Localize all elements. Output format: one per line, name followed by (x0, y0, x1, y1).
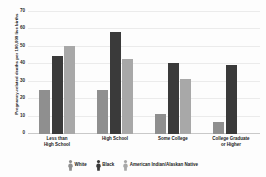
y-tick-label-10: 10 (20, 113, 25, 118)
bar-black-2[interactable] (168, 63, 179, 134)
x-axis-label-3: College Graduate or Higher (202, 136, 260, 154)
legend-item-1[interactable]: Black (96, 160, 115, 171)
y-axis-title: Pregnancy-related deaths per 100,000 liv… (15, 3, 19, 125)
person-icon (96, 160, 101, 171)
legend-label: American Indian/Alaskan Native (130, 163, 198, 168)
y-tick-label-30: 30 (20, 78, 25, 83)
bar-group (86, 12, 144, 134)
legend-item-0[interactable]: White (68, 160, 87, 171)
person-icon (68, 160, 73, 171)
bar-american-indian-alaskan-native-1[interactable] (122, 59, 133, 134)
bar-white-1[interactable] (97, 90, 108, 134)
bar-group (28, 12, 86, 134)
y-tick-label-70: 70 (20, 9, 25, 14)
bar-american-indian-alaskan-native-0[interactable] (64, 46, 75, 134)
y-tick-label-60: 60 (20, 26, 25, 31)
x-axis-labels: Less than High SchoolHigh SchoolSome Col… (28, 136, 260, 154)
x-axis-label-1: High School (86, 136, 144, 154)
bar-black-1[interactable] (110, 32, 121, 134)
bar-group (144, 12, 202, 134)
bar-black-3[interactable] (226, 65, 237, 134)
plot-area: 010203040506070 (28, 12, 260, 134)
bar-chart: Pregnancy-related deaths per 100,000 liv… (0, 0, 266, 177)
person-icon (123, 160, 128, 171)
legend-item-2[interactable]: American Indian/Alaskan Native (123, 160, 198, 171)
bar-white-0[interactable] (39, 90, 50, 134)
legend-label: Black (102, 163, 114, 168)
y-tick-label-50: 50 (20, 44, 25, 49)
bars-layer (28, 12, 260, 134)
legend-label: White (74, 163, 86, 168)
y-tick-label-0: 0 (22, 131, 25, 136)
bar-black-0[interactable] (52, 56, 63, 134)
x-axis-label-2: Some College (144, 136, 202, 154)
y-tick-label-20: 20 (20, 96, 25, 101)
chart-legend: WhiteBlackAmerican Indian/Alaskan Native (0, 158, 266, 172)
bar-white-2[interactable] (155, 114, 166, 134)
y-tick-label-40: 40 (20, 61, 25, 66)
bar-white-3[interactable] (213, 122, 224, 134)
bar-american-indian-alaskan-native-2[interactable] (180, 79, 191, 134)
bar-group (202, 12, 260, 134)
x-axis-label-0: Less than High School (28, 136, 86, 154)
